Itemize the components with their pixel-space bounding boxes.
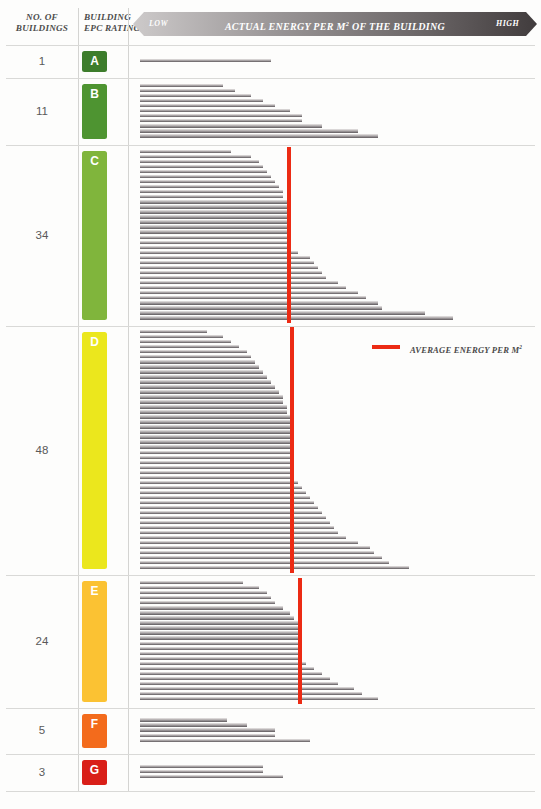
energy-bar bbox=[140, 481, 298, 484]
energy-bar bbox=[140, 165, 263, 168]
energy-bar bbox=[140, 682, 338, 685]
energy-bar bbox=[140, 365, 259, 368]
energy-bar bbox=[140, 596, 271, 599]
energy-bar bbox=[140, 456, 290, 459]
epc-badge-f: F bbox=[82, 714, 107, 748]
column-header-line2: BUILDINGS bbox=[6, 23, 78, 34]
energy-bar bbox=[140, 451, 290, 454]
energy-bar bbox=[140, 601, 275, 604]
energy-bar bbox=[140, 360, 255, 363]
energy-bar bbox=[140, 551, 374, 554]
energy-bar bbox=[140, 496, 310, 499]
energy-bar bbox=[140, 616, 294, 619]
energy-bar bbox=[140, 461, 290, 464]
energy-bar bbox=[140, 739, 310, 742]
building-count-g: 3 bbox=[6, 766, 78, 778]
energy-bar bbox=[140, 405, 287, 408]
energy-bar bbox=[140, 390, 279, 393]
energy-bar bbox=[140, 124, 322, 127]
building-count-e: 24 bbox=[6, 635, 78, 647]
energy-bar bbox=[140, 291, 358, 294]
energy-bar bbox=[140, 205, 287, 208]
energy-bar bbox=[140, 672, 322, 675]
energy-bar bbox=[140, 276, 326, 279]
energy-bar bbox=[140, 476, 294, 479]
bars-b bbox=[140, 78, 537, 145]
rating-row-a: 1A bbox=[0, 45, 541, 78]
energy-bar bbox=[140, 445, 290, 448]
energy-bar bbox=[140, 734, 275, 737]
rating-row-g: 3G bbox=[0, 754, 541, 791]
energy-bar bbox=[140, 355, 251, 358]
energy-bar bbox=[140, 251, 298, 254]
energy-bar bbox=[140, 667, 314, 670]
energy-bar bbox=[140, 647, 298, 650]
energy-bar bbox=[140, 631, 298, 634]
energy-bar bbox=[140, 566, 409, 569]
energy-bar bbox=[140, 526, 334, 529]
energy-bar bbox=[140, 190, 283, 193]
energy-bar bbox=[140, 591, 267, 594]
energy-bar bbox=[140, 541, 358, 544]
energy-bar bbox=[140, 415, 290, 418]
energy-bar bbox=[140, 697, 378, 700]
energy-bar bbox=[140, 511, 322, 514]
energy-bar bbox=[140, 581, 243, 584]
energy-bar bbox=[140, 230, 290, 233]
energy-bar bbox=[140, 531, 338, 534]
energy-bar bbox=[140, 236, 290, 239]
rating-row-d: 48D bbox=[0, 326, 541, 575]
energy-bar bbox=[140, 330, 207, 333]
rating-row-b: 11B bbox=[0, 78, 541, 145]
energy-bar bbox=[140, 556, 382, 559]
building-count-c: 34 bbox=[6, 229, 78, 241]
epc-badge-a: A bbox=[82, 51, 107, 72]
energy-bar bbox=[140, 611, 290, 614]
energy-bar bbox=[140, 335, 223, 338]
building-count-f: 5 bbox=[6, 724, 78, 736]
energy-bar bbox=[140, 375, 267, 378]
energy-bar bbox=[140, 385, 275, 388]
rating-row-f: 5F bbox=[0, 708, 541, 754]
average-energy-line-d bbox=[290, 327, 294, 573]
energy-bar bbox=[140, 89, 235, 92]
column-header-no-of-buildings: NO. OF BUILDINGS bbox=[6, 12, 78, 34]
energy-bar bbox=[140, 723, 247, 726]
bars-d bbox=[140, 326, 537, 575]
energy-bar bbox=[140, 170, 267, 173]
building-count-b: 11 bbox=[6, 105, 78, 117]
epc-badge-g: G bbox=[82, 760, 107, 785]
energy-bar bbox=[140, 501, 314, 504]
energy-bar bbox=[140, 241, 290, 244]
energy-bar bbox=[140, 350, 247, 353]
epc-badge-b: B bbox=[82, 84, 107, 139]
energy-bar bbox=[140, 271, 322, 274]
energy-bar bbox=[140, 246, 290, 249]
energy-bar bbox=[140, 200, 287, 203]
energy-bar bbox=[140, 561, 389, 564]
energy-bar bbox=[140, 84, 223, 87]
energy-bar bbox=[140, 370, 263, 373]
energy-bar bbox=[140, 718, 227, 721]
energy-bar bbox=[140, 657, 298, 660]
energy-bar bbox=[140, 486, 302, 489]
energy-bar bbox=[140, 155, 251, 158]
energy-bar bbox=[140, 430, 290, 433]
column-header-line1: NO. OF bbox=[6, 12, 78, 23]
banner-title-label: ACTUAL ENERGY PER M2 OF THE BUILDING bbox=[133, 12, 537, 36]
energy-bar bbox=[140, 410, 287, 413]
energy-bar bbox=[140, 636, 298, 639]
energy-bar bbox=[140, 286, 346, 289]
energy-bar bbox=[140, 301, 378, 304]
energy-bar bbox=[140, 134, 378, 137]
epc-energy-chart: NO. OF BUILDINGS BUILDING EPC RATING LOW bbox=[0, 0, 541, 809]
bars-c bbox=[140, 145, 537, 326]
energy-bar bbox=[140, 662, 306, 665]
energy-bar bbox=[140, 728, 275, 731]
energy-bar bbox=[140, 195, 283, 198]
energy-bar bbox=[140, 210, 290, 213]
energy-bar bbox=[140, 536, 346, 539]
energy-bar bbox=[140, 395, 283, 398]
energy-bar bbox=[140, 606, 283, 609]
chart-header: NO. OF BUILDINGS BUILDING EPC RATING LOW bbox=[0, 0, 541, 45]
